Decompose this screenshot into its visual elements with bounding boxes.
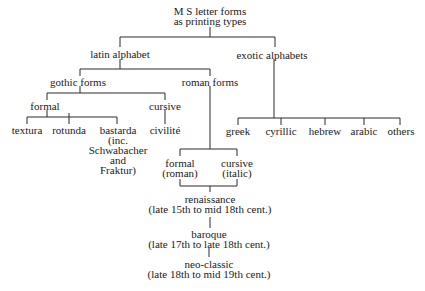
node-renaissance-line-2: (late 15th to mid 18th cent.) (149, 204, 272, 214)
node-others: others (388, 126, 415, 136)
node-baroque-line-2: (late 17th to late 18th cent.) (148, 239, 270, 249)
node-neo-classic: neo-classic (late 18th to mid 19th cent.… (148, 259, 271, 279)
node-bastarda-line-5: Fraktur) (89, 165, 148, 175)
node-civilite: civilité (150, 125, 181, 135)
node-arabic: arabic (351, 126, 378, 136)
node-roman-formal-line-2: (roman) (162, 168, 197, 178)
node-gothic-forms: gothic forms (50, 77, 106, 87)
node-roman-forms: roman forms (182, 77, 239, 87)
node-rotunda-label: rotunda (52, 125, 86, 135)
node-hebrew-label: hebrew (309, 126, 341, 136)
node-gothic-label: gothic forms (50, 77, 106, 87)
node-arabic-label: arabic (351, 126, 378, 136)
node-greek: greek (226, 126, 250, 136)
node-exotic-alphabets: exotic alphabets (236, 50, 307, 60)
node-exotic-label: exotic alphabets (236, 50, 307, 60)
node-others-label: others (388, 126, 415, 136)
node-renaissance: renaissance (late 15th to mid 18th cent.… (149, 194, 272, 214)
node-greek-label: greek (226, 126, 250, 136)
node-root-line-2: as printing types (174, 16, 247, 26)
node-baroque: baroque (late 17th to late 18th cent.) (148, 229, 270, 249)
node-gothic-cursive-label: cursive (149, 101, 181, 111)
node-rotunda: rotunda (52, 125, 86, 135)
node-latin-alphabet: latin alphabet (90, 49, 150, 59)
node-civilite-label: civilité (150, 125, 181, 135)
node-roman-formal: formal (roman) (162, 158, 197, 178)
node-gothic-formal: formal (30, 101, 59, 111)
node-bastarda: bastarda (inc. Schwabacher and Fraktur) (89, 125, 148, 175)
diagram-canvas: M S letter forms as printing types latin… (0, 0, 425, 291)
node-latin-label: latin alphabet (90, 49, 150, 59)
node-roman-cursive-line-2: (italic) (221, 168, 253, 178)
node-cyrillic-label: cyrillic (265, 126, 296, 136)
node-root: M S letter forms as printing types (174, 6, 247, 26)
node-gothic-formal-label: formal (30, 101, 59, 111)
node-gothic-cursive: cursive (149, 101, 181, 111)
node-textura-label: textura (12, 125, 43, 135)
node-neo-classic-line-2: (late 18th to mid 19th cent.) (148, 269, 271, 279)
node-roman-label: roman forms (182, 77, 239, 87)
node-roman-cursive: cursive (italic) (221, 158, 253, 178)
node-textura: textura (12, 125, 43, 135)
node-cyrillic: cyrillic (265, 126, 296, 136)
node-hebrew: hebrew (309, 126, 341, 136)
